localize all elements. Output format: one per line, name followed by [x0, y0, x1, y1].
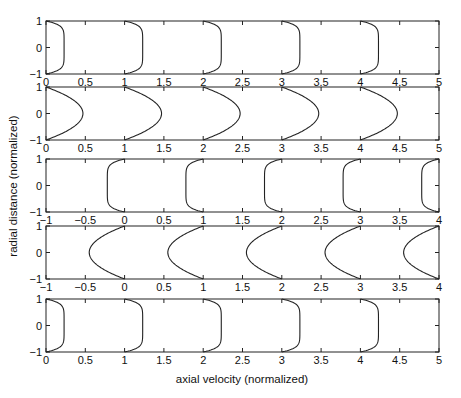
x-tick-label: 0.5	[78, 142, 93, 154]
y-tick-label: 0	[36, 108, 42, 120]
velocity-profile-curve	[125, 299, 143, 352]
y-tick-label: 0	[36, 320, 42, 332]
x-tick-label: 2.5	[313, 281, 328, 293]
axes-frame	[46, 299, 439, 352]
x-tick-label: 1.5	[156, 142, 171, 154]
x-tick-label: 2.5	[235, 142, 250, 154]
y-tick-label: 1	[36, 220, 42, 232]
x-tick-label: −0.5	[74, 281, 96, 293]
y-tick-label: −1	[29, 68, 42, 80]
velocity-profile-curve	[265, 159, 282, 212]
velocity-profile-curve	[125, 87, 162, 140]
x-tick-label: 2	[200, 142, 206, 154]
velocity-profile-curve	[282, 87, 319, 140]
x-tick-label: 3	[279, 76, 285, 88]
velocity-profile-curve	[325, 226, 360, 279]
velocity-profile-curve	[360, 21, 378, 74]
x-tick-label: 5	[436, 142, 442, 154]
x-tick-label: 0	[122, 281, 128, 293]
x-tick-label: 1.5	[156, 76, 171, 88]
x-tick-label: 3	[357, 281, 363, 293]
panel-3: −1−0.500.511.522.533.54−101	[29, 153, 442, 226]
velocity-profile-curve	[203, 299, 221, 352]
x-tick-label: 3	[279, 142, 285, 154]
x-tick-label: 2.5	[313, 214, 328, 226]
x-tick-label: 1.5	[235, 214, 250, 226]
x-tick-label: 5	[436, 354, 442, 366]
velocity-profile-curve	[186, 159, 203, 212]
velocity-profile-curve	[246, 226, 281, 279]
velocity-profile-curve	[125, 21, 143, 74]
axes-frame	[46, 159, 439, 212]
x-tick-label: 1	[200, 214, 206, 226]
x-tick-label: 3.5	[313, 76, 328, 88]
panel-2: 00.511.522.533.544.55−101	[29, 81, 442, 154]
x-tick-label: 0	[43, 354, 49, 366]
panel-5: 00.511.522.533.544.55−101	[29, 293, 442, 366]
x-tick-label: 1.5	[235, 281, 250, 293]
y-tick-label: 0	[36, 247, 42, 259]
x-tick-label: 4	[436, 281, 442, 293]
panels-group: 00.511.522.533.544.55−10100.511.522.533.…	[29, 15, 442, 366]
velocity-profile-curve	[282, 299, 300, 352]
velocity-profile-curve	[404, 226, 439, 279]
velocity-profile-curve	[168, 226, 203, 279]
x-tick-label: 3.5	[313, 142, 328, 154]
x-tick-label: 0.5	[156, 281, 171, 293]
x-tick-label: 1	[200, 281, 206, 293]
velocity-profile-curve	[360, 87, 397, 140]
velocity-profile-curve	[89, 226, 124, 279]
x-tick-label: 3.5	[313, 354, 328, 366]
x-tick-label: 4.5	[392, 354, 407, 366]
x-tick-label: 1	[122, 354, 128, 366]
figure: 00.511.522.533.544.55−10100.511.522.533.…	[0, 0, 461, 398]
y-axis-label: radial distance (normalized)	[7, 115, 19, 256]
x-axis-label: axial velocity (normalized)	[176, 373, 308, 385]
x-tick-label: 5	[436, 76, 442, 88]
y-tick-label: −1	[29, 134, 42, 146]
x-tick-label: 1.5	[156, 354, 171, 366]
x-tick-label: 0.5	[156, 214, 171, 226]
x-tick-label: 0	[122, 214, 128, 226]
y-tick-label: 0	[36, 42, 42, 54]
x-tick-label: 0	[43, 142, 49, 154]
x-tick-label: 2	[279, 281, 285, 293]
x-tick-label: 3.5	[392, 214, 407, 226]
x-tick-label: 1	[122, 142, 128, 154]
velocity-profile-curve	[46, 87, 83, 140]
panel-1: 00.511.522.533.544.55−101	[29, 15, 442, 88]
axes-frame	[46, 226, 439, 279]
y-tick-label: 1	[36, 81, 42, 93]
x-tick-label: 4	[436, 214, 442, 226]
x-tick-label: 3.5	[392, 281, 407, 293]
x-tick-label: 2.5	[235, 354, 250, 366]
velocity-profile-curve	[360, 299, 378, 352]
velocity-profile-curve	[107, 159, 124, 212]
panel-4: −1−0.500.511.522.533.54−101	[29, 220, 442, 293]
x-tick-label: 2	[200, 76, 206, 88]
y-tick-label: −1	[29, 273, 42, 285]
x-tick-label: 1	[122, 76, 128, 88]
x-tick-label: 0	[43, 76, 49, 88]
x-tick-label: −0.5	[74, 214, 96, 226]
x-tick-label: 4.5	[392, 142, 407, 154]
x-tick-label: 4	[357, 354, 363, 366]
x-tick-label: 4	[357, 76, 363, 88]
velocity-profile-curve	[203, 87, 240, 140]
x-tick-label: 4	[357, 142, 363, 154]
y-tick-label: 1	[36, 293, 42, 305]
y-tick-label: −1	[29, 206, 42, 218]
y-tick-label: 0	[36, 180, 42, 192]
x-tick-label: 3	[279, 354, 285, 366]
y-tick-label: 1	[36, 15, 42, 27]
axes-frame	[46, 21, 439, 74]
velocity-profile-curve	[343, 159, 360, 212]
y-tick-label: −1	[29, 346, 42, 358]
x-tick-label: 2.5	[235, 76, 250, 88]
x-tick-label: 4.5	[392, 76, 407, 88]
x-tick-label: 0.5	[78, 76, 93, 88]
y-tick-label: 1	[36, 153, 42, 165]
x-tick-label: 3	[357, 214, 363, 226]
x-tick-label: 2	[200, 354, 206, 366]
x-tick-label: 0.5	[78, 354, 93, 366]
